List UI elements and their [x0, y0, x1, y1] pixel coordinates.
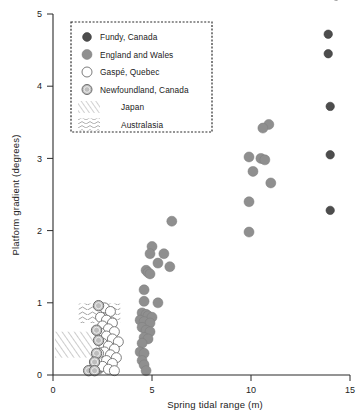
- y-tick-label: 2: [37, 226, 42, 236]
- legend-label: Gaspé, Quebec: [100, 67, 159, 77]
- x-tick-label: 5: [149, 385, 154, 395]
- x-tick-label: 10: [246, 385, 256, 395]
- region-japan: [55, 332, 97, 358]
- y-tick-label: 1: [37, 298, 42, 308]
- x-tick-label: 15: [345, 385, 355, 395]
- data-point: [82, 50, 92, 60]
- legend-label: Newfoundland, Canada: [100, 85, 189, 95]
- data-point: [145, 249, 155, 259]
- data-point: [266, 178, 276, 188]
- data-point: [153, 298, 163, 308]
- data-point: [165, 262, 175, 272]
- data-point: [324, 30, 332, 38]
- data-point: [244, 227, 254, 237]
- legend-label: Fundy, Canada: [100, 32, 158, 42]
- scatter-plot: 012345 051015 Platform gradient (degrees…: [0, 0, 360, 416]
- data-point: [93, 335, 103, 345]
- data-point: [139, 296, 149, 306]
- y-tick-label: 0: [37, 370, 42, 380]
- data-point: [326, 102, 334, 110]
- data-point: [260, 155, 270, 165]
- y-tick-label: 5: [37, 9, 42, 19]
- data-point: [91, 325, 101, 335]
- y-tick-label: 4: [37, 81, 42, 91]
- x-axis-title: Spring tidal range (m): [167, 399, 263, 410]
- data-point: [83, 33, 92, 42]
- data-point: [326, 206, 334, 214]
- data-point: [153, 258, 163, 268]
- data-point: [326, 151, 334, 159]
- data-point: [159, 249, 169, 259]
- chart-figure: 012345 051015 Platform gradient (degrees…: [0, 0, 360, 416]
- legend-label: Australasia: [121, 120, 163, 130]
- legend-label: England and Wales: [100, 50, 173, 60]
- y-axis-ticks: 012345: [37, 9, 53, 380]
- data-point: [324, 50, 332, 58]
- x-axis-ticks: 051015: [50, 375, 355, 395]
- legend-label: Japan: [121, 102, 144, 112]
- data-point: [258, 123, 268, 133]
- data-point: [248, 166, 258, 176]
- data-point: [137, 338, 147, 348]
- y-tick-label: 3: [37, 154, 42, 164]
- legend-swatch-diagonal-hatch: [78, 101, 100, 113]
- data-point: [82, 85, 92, 95]
- data-point: [93, 300, 103, 310]
- data-point: [139, 285, 149, 295]
- data-point: [244, 152, 254, 162]
- y-axis-title: Platform gradient (degrees): [10, 134, 21, 255]
- data-point: [141, 366, 151, 376]
- data-point: [167, 216, 177, 226]
- data-point: [82, 67, 92, 77]
- data-point: [109, 366, 119, 376]
- data-point: [244, 197, 254, 207]
- legend: Fundy, CanadaEngland and WalesGaspé, Que…: [71, 22, 212, 132]
- x-tick-label: 0: [50, 385, 55, 395]
- data-point: [89, 365, 99, 375]
- data-point: [145, 269, 155, 279]
- legend-swatch-wavy-lines: [78, 119, 100, 131]
